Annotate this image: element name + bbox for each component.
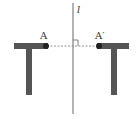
label-a-prime: A′ <box>94 30 105 41</box>
axis-label-l: l <box>77 4 80 15</box>
left-t-shape <box>14 43 48 95</box>
reflection-diagram: l A A′ <box>0 0 138 119</box>
right-t-shape <box>97 43 129 95</box>
point-a <box>43 43 49 49</box>
right-angle-marker <box>73 40 78 46</box>
label-a: A <box>39 30 48 41</box>
point-a-prime <box>96 43 102 49</box>
